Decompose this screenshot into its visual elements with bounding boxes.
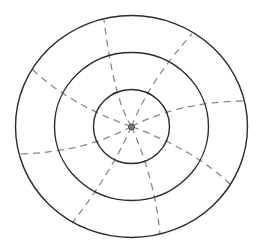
spoke-right-dashed-line [132, 101, 244, 127]
spoke-upper-left-dashed-line [32, 69, 132, 127]
diagram-canvas [0, 0, 260, 250]
spoke-left-dashed-line [20, 127, 132, 155]
spoke-upper-right-dashed-line [132, 34, 193, 127]
spoke-top-dashed-line [104, 20, 132, 127]
center-point [129, 124, 135, 130]
spoke-bottom-dashed-line [132, 127, 161, 235]
spoke-lower-left-dashed-line [72, 127, 132, 224]
spoke-lower-right-dashed-line [132, 127, 232, 186]
concentric-circles-diagram [0, 0, 260, 250]
